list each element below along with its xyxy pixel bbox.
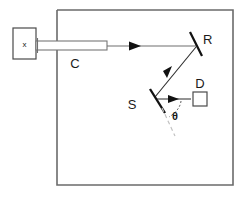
detector-box bbox=[193, 92, 207, 106]
figure-canvas: x C R S θ D bbox=[0, 0, 245, 198]
optical-schematic-svg: x C R S θ D bbox=[0, 0, 245, 198]
mirror-r-label: R bbox=[203, 32, 212, 47]
collimator-label: C bbox=[70, 56, 79, 71]
beam-arrow-to-r-icon bbox=[129, 42, 141, 51]
mirror-s-label: S bbox=[128, 97, 137, 112]
beam-arrow-to-s-icon bbox=[163, 66, 172, 78]
source-label: x bbox=[23, 40, 27, 49]
theta-angle-label: θ bbox=[172, 110, 178, 122]
collimator-tube bbox=[36, 41, 107, 50]
beam-r-to-s bbox=[155, 47, 196, 97]
detector-label: D bbox=[195, 76, 204, 91]
beam-arrow-to-d-icon bbox=[168, 95, 179, 103]
